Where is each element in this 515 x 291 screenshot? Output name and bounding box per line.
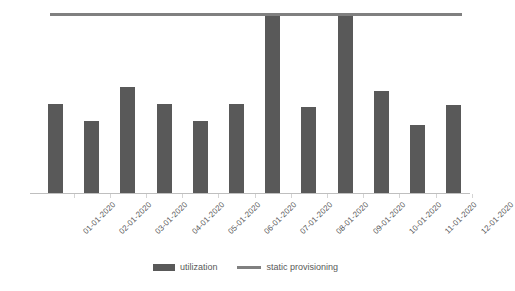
bar-03-01-2020: [120, 87, 135, 193]
bar-10-01-2020: [374, 91, 389, 193]
x-tick-label-06-01-2020: 06-01-2020: [262, 200, 298, 236]
x-tick-label-04-01-2020: 04-01-2020: [190, 200, 226, 236]
chart-legend: utilization static provisioning: [0, 258, 491, 276]
legend-line-swatch-icon: [237, 266, 261, 269]
bar-02-01-2020: [84, 121, 99, 193]
legend-label-static-provisioning: static provisioning: [266, 262, 338, 272]
legend-bar-swatch-icon: [153, 264, 175, 271]
bar-06-01-2020: [229, 104, 244, 194]
x-tick-label-05-01-2020: 05-01-2020: [226, 200, 262, 236]
bar-08-01-2020: [301, 107, 316, 193]
bar-series-utilization: [0, 0, 491, 200]
legend-label-utilization: utilization: [180, 262, 218, 272]
x-tick-label-01-01-2020: 01-01-2020: [81, 200, 117, 236]
x-tick-label-10-01-2020: 10-01-2020: [407, 200, 443, 236]
plot-area: [0, 0, 491, 200]
x-tick-label-08-01-2020: 08-01-2020: [335, 200, 371, 236]
x-tick-label-02-01-2020: 02-01-2020: [117, 200, 153, 236]
bar-04-01-2020: [157, 104, 172, 194]
x-tick-label-07-01-2020: 07-01-2020: [298, 200, 334, 236]
x-tick-label-group: 01-01-202002-01-202003-01-202004-01-2020…: [0, 196, 491, 258]
legend-item-utilization[interactable]: utilization: [153, 262, 218, 272]
x-tick-label-09-01-2020: 09-01-2020: [371, 200, 407, 236]
x-tick-label-11-01-2020: 11-01-2020: [443, 200, 479, 236]
x-tick-label-03-01-2020: 03-01-2020: [154, 200, 190, 236]
bar-01-01-2020: [48, 104, 63, 194]
bar-09-01-2020: [338, 14, 353, 193]
bar-12-01-2020: [446, 105, 461, 193]
bar-05-01-2020: [193, 121, 208, 193]
legend-item-static-provisioning[interactable]: static provisioning: [237, 262, 338, 272]
line-series-static-provisioning: [50, 13, 462, 16]
x-tick-label-12-01-2020: 12-01-2020: [479, 200, 515, 236]
bar-11-01-2020: [410, 125, 425, 193]
bar-07-01-2020: [265, 14, 280, 193]
